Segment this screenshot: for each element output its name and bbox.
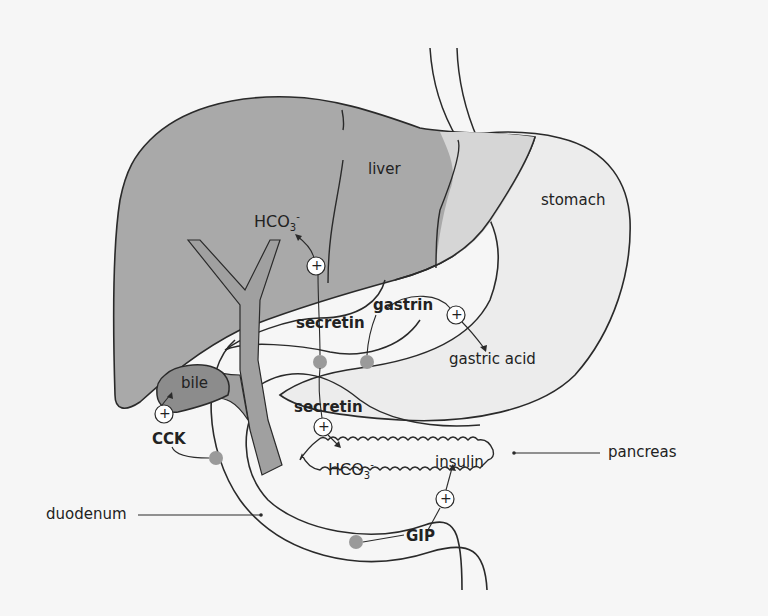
gip-line bbox=[363, 535, 404, 542]
liver-label: liver bbox=[368, 162, 401, 177]
gastric-acid-label: gastric acid bbox=[449, 352, 536, 367]
plus-sign-cck: + bbox=[159, 406, 171, 420]
hco3-pancreas-sub: 3 bbox=[364, 470, 370, 481]
stomach-label: stomach bbox=[541, 193, 605, 208]
duodenum-pointer-dot bbox=[259, 513, 263, 517]
gip-cell-dot bbox=[349, 535, 363, 549]
plus-sign-secretin-liver: + bbox=[311, 258, 323, 272]
plus-sign-secretin-pancreas: + bbox=[318, 419, 330, 433]
gastrin-label: gastrin bbox=[373, 298, 433, 313]
plus-sign-gip: + bbox=[440, 491, 452, 505]
secretin-lower-label: secretin bbox=[294, 400, 363, 415]
bile-label: bile bbox=[181, 376, 208, 391]
insulin-label: insulin bbox=[435, 455, 484, 470]
cck-line bbox=[172, 447, 209, 458]
cck-label: CCK bbox=[152, 432, 186, 447]
secretin-upper-label: secretin bbox=[296, 316, 365, 331]
hco3-pancreas-base: HCO bbox=[328, 460, 364, 479]
hco3-liver-sub: 3 bbox=[290, 222, 296, 233]
gastrin-line bbox=[367, 315, 376, 355]
digestive-hormone-diagram: + + + + + liver stomach bile pancreas du… bbox=[0, 0, 768, 616]
hco3-pancreas-sup: - bbox=[370, 459, 374, 470]
pancreas-label: pancreas bbox=[608, 445, 677, 460]
hco3-liver-sup: - bbox=[296, 211, 300, 222]
gastrin-cell-dot bbox=[360, 355, 374, 369]
hco3-liver-base: HCO bbox=[254, 212, 290, 231]
plus-sign-gastrin: + bbox=[451, 307, 463, 321]
cck-cell-dot bbox=[209, 451, 223, 465]
gip-label: GIP bbox=[406, 529, 435, 544]
duodenum-label: duodenum bbox=[46, 507, 127, 522]
insulin-arrow bbox=[446, 468, 452, 490]
hco3-liver-label: HCO3- bbox=[254, 212, 300, 233]
secretin-cell-dot-1 bbox=[313, 355, 327, 369]
pancreas-pointer-dot bbox=[512, 451, 516, 455]
hco3-pancreas-label: HCO3- bbox=[328, 460, 374, 481]
